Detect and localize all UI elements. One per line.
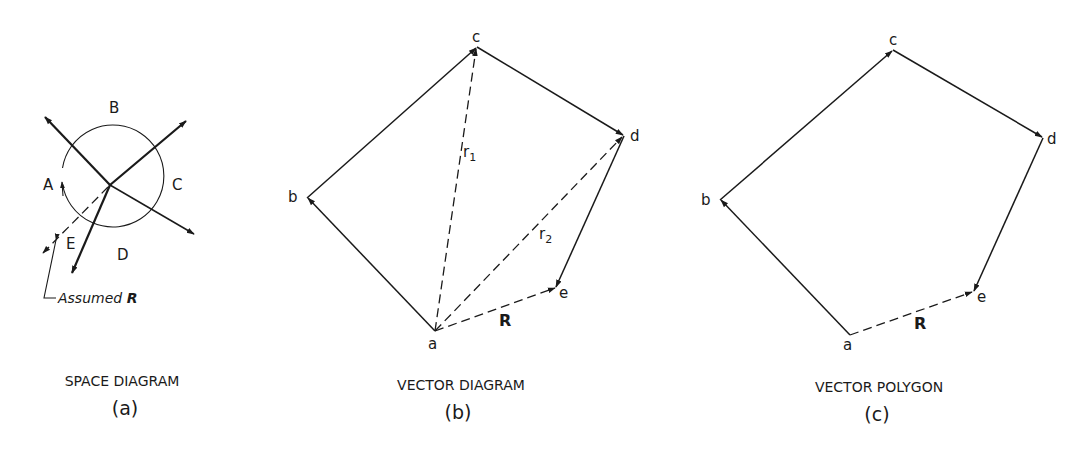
polygon-vertex-label-d: d [1047,130,1057,148]
polygon-vertex-label-e: e [977,288,986,306]
vector-de [556,136,624,287]
force-line-upper-left [45,117,110,185]
resultant-r1 [435,49,476,331]
polygon-vector-ab [721,200,850,335]
space-label-e: E [66,235,75,253]
polygon-vertex-label-b: b [701,191,711,209]
assumed-r-annotation: Assumed R [57,290,137,306]
vertex-label-a: a [428,335,437,353]
vertex-label-d: d [630,127,640,145]
space-label-d: D [117,246,129,264]
sublabel-a: (a) [112,397,138,419]
sublabel-b: (b) [445,401,472,423]
label-r1: r1 [463,143,476,164]
vector-diagram: a b c d e r1 r2 R VECTOR DIAGRAM (b) [288,28,640,423]
polygon-vector-bc [720,51,892,200]
label-resultant-r: R [499,311,511,330]
resultant-r [435,288,555,331]
figure-canvas: A B C D E Assumed R SPACE DIAGRAM (a) a … [0,0,1083,449]
resultant-r2 [435,137,622,331]
polygon-vector-de [974,138,1043,291]
vector-polygon: a b c d e R VECTOR POLYGON (c) [701,31,1057,425]
label-r2: r2 [539,225,552,246]
assumed-resultant-line [43,187,108,253]
annotation-leader [44,240,56,298]
space-label-a: A [43,176,54,194]
vertex-label-c: c [472,28,480,46]
vertex-label-e: e [559,284,568,302]
caption-vector-diagram: VECTOR DIAGRAM [397,377,525,393]
bow-notation-circle [63,125,164,227]
space-label-b: B [109,99,119,117]
vector-ab [308,198,435,331]
polygon-resultant-r [850,292,972,335]
caption-space-diagram: SPACE DIAGRAM [65,373,180,389]
space-label-c: C [172,176,182,194]
polygon-vertex-label-a: a [843,336,852,354]
vector-cd [477,47,623,135]
polygon-vector-cd [893,50,1042,137]
vertex-label-b: b [288,188,298,206]
polygon-label-resultant-r: R [914,314,926,333]
polygon-vertex-label-c: c [889,31,897,49]
caption-vector-polygon: VECTOR POLYGON [815,379,943,395]
sublabel-c: (c) [864,403,889,425]
force-line-lower-left [72,185,110,273]
vector-bc [307,48,476,198]
space-diagram: A B C D E Assumed R SPACE DIAGRAM (a) [43,99,194,419]
